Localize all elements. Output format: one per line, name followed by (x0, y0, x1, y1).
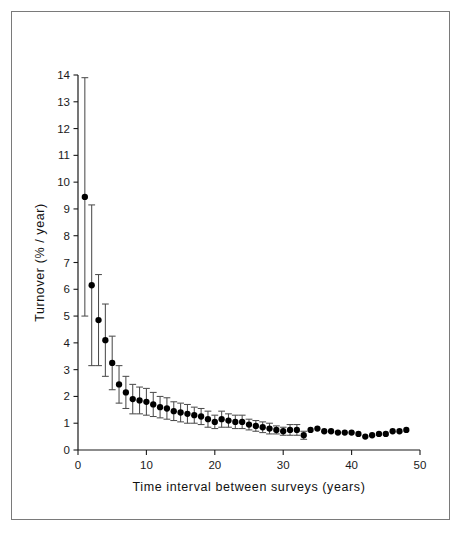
x-tick-label-40: 40 (345, 459, 358, 471)
y-tick-label-8: 8 (64, 230, 70, 242)
y-tick-label-6: 6 (64, 283, 70, 295)
data-point-31 (287, 427, 293, 433)
y-tick-label-5: 5 (64, 310, 70, 322)
data-point-3 (95, 317, 101, 323)
data-point-20 (212, 419, 218, 425)
x-axis-title: Time interval between surveys (years) (133, 480, 366, 494)
data-point-47 (396, 428, 402, 434)
y-tick-label-7: 7 (64, 257, 70, 269)
data-point-6 (116, 381, 122, 387)
data-point-22 (225, 417, 231, 423)
y-tick-label-0: 0 (64, 444, 70, 456)
data-point-37 (328, 428, 334, 434)
y-tick-label-1: 1 (64, 417, 70, 429)
data-point-7 (123, 389, 129, 395)
data-point-8 (130, 396, 136, 402)
y-tick-label-14: 14 (57, 69, 70, 81)
data-point-16 (184, 411, 190, 417)
data-point-29 (273, 427, 279, 433)
data-point-32 (294, 427, 300, 433)
data-point-2 (89, 282, 95, 288)
data-point-26 (253, 423, 259, 429)
y-tick-label-10: 10 (57, 176, 70, 188)
data-point-48 (403, 427, 409, 433)
data-point-27 (260, 424, 266, 430)
y-tick-label-2: 2 (64, 390, 70, 402)
data-point-13 (164, 405, 170, 411)
data-point-11 (150, 401, 156, 407)
data-point-4 (102, 337, 108, 343)
y-axis-title: Turnover (% / year) (33, 203, 47, 322)
data-point-35 (314, 425, 320, 431)
data-point-21 (218, 416, 224, 422)
data-point-45 (383, 431, 389, 437)
chart-canvas: 0123456789101112131401020304050Time inte… (0, 0, 462, 540)
data-point-38 (335, 429, 341, 435)
data-point-19 (205, 416, 211, 422)
data-point-30 (280, 428, 286, 434)
y-tick-label-3: 3 (64, 364, 70, 376)
data-point-12 (157, 404, 163, 410)
data-point-18 (198, 413, 204, 419)
data-point-14 (171, 408, 177, 414)
y-tick-label-4: 4 (64, 337, 71, 349)
data-series-group (81, 78, 409, 440)
data-point-41 (355, 431, 361, 437)
data-point-40 (348, 429, 354, 435)
data-point-23 (232, 419, 238, 425)
data-point-17 (191, 412, 197, 418)
data-point-28 (266, 425, 272, 431)
y-tick-label-9: 9 (64, 203, 70, 215)
data-point-9 (136, 397, 142, 403)
x-tick-label-30: 30 (277, 459, 290, 471)
y-tick-label-13: 13 (57, 96, 70, 108)
x-tick-label-0: 0 (75, 459, 81, 471)
data-point-10 (143, 399, 149, 405)
data-point-25 (246, 421, 252, 427)
data-point-44 (376, 431, 382, 437)
data-point-39 (342, 429, 348, 435)
data-point-43 (369, 432, 375, 438)
x-tick-label-50: 50 (414, 459, 427, 471)
data-point-33 (301, 432, 307, 438)
data-point-24 (239, 419, 245, 425)
y-tick-label-12: 12 (57, 123, 70, 135)
x-tick-label-20: 20 (208, 459, 221, 471)
data-point-1 (82, 194, 88, 200)
data-point-36 (321, 428, 327, 434)
data-point-34 (307, 427, 313, 433)
x-tick-label-10: 10 (140, 459, 153, 471)
y-tick-label-11: 11 (58, 149, 70, 161)
turnover-scatter-chart: 0123456789101112131401020304050Time inte… (0, 0, 462, 540)
data-point-46 (389, 428, 395, 434)
data-point-15 (177, 409, 183, 415)
data-point-42 (362, 433, 368, 439)
data-point-5 (109, 360, 115, 366)
